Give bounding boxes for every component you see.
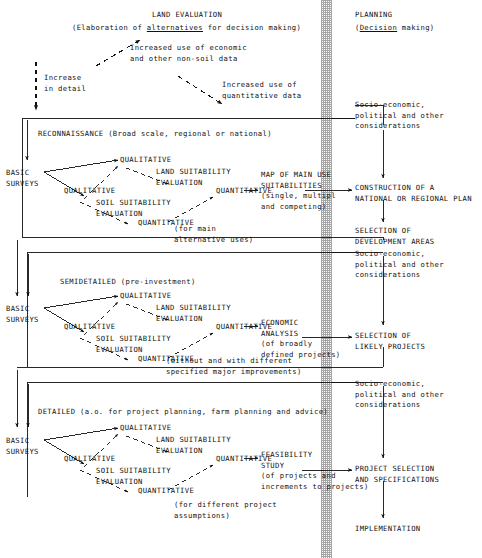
step-implementation: IMPLEMENTATION xyxy=(355,524,420,535)
section-heading-detailed: DETAILED (a.o. for project planning, far… xyxy=(38,407,328,418)
alternatives-emphasis: alternatives xyxy=(147,23,203,32)
qualitative-land-detailed: QUALITATIVE xyxy=(120,423,171,434)
output-economic-analysis: ECONOMIC ANALYSIS (of broadly defined pr… xyxy=(261,318,341,360)
quantitative-soil-detailed: QUANTITATIVE xyxy=(138,486,194,497)
land-suitability-evaluation-detailed: LAND SUITABILITY EVALUATION xyxy=(156,435,231,456)
output-feasibility-study: FEASIBILITY STUDY (of projects and incre… xyxy=(261,450,369,492)
land-evaluation-subtitle: (Elaboration of alternatives for decisio… xyxy=(72,23,301,34)
step-construction-of-plan: CONSTRUCTION OF A NATIONAL OR REGIONAL P… xyxy=(355,183,472,204)
basic-surveys-semidetailed: BASIC SURVEYS xyxy=(6,304,39,325)
considerations-reconnaissance: Socio-economic, political and other cons… xyxy=(355,100,444,132)
soil-suitability-evaluation-detailed: SOIL SUITABILITY EVALUATION xyxy=(96,466,171,487)
section-heading-semidetailed: SEMIDETAILED (pre-investment) xyxy=(60,277,196,288)
basic-surveys-reconnaissance: BASIC SURVEYS xyxy=(6,168,39,189)
planning-subtitle: (Decision making) xyxy=(355,23,435,34)
qualitative-soil-detailed: QUALITATIVE xyxy=(64,454,115,465)
soil-suitability-evaluation-reconnaissance: SOIL SUITABILITY EVALUATION xyxy=(96,198,171,219)
note-increase-in-detail: Increase in detail xyxy=(44,73,86,94)
decision-emphasis: Decision xyxy=(360,23,397,32)
land-suitability-evaluation-reconnaissance: LAND SUITABILITY EVALUATION xyxy=(156,167,231,188)
soil-suitability-evaluation-semidetailed: SOIL SUITABILITY EVALUATION xyxy=(96,334,171,355)
note-increased-economic-data: Increased use of economic and other non-… xyxy=(130,43,247,64)
step-project-selection-and-specifications: PROJECT SELECTION AND SPECIFICATIONS xyxy=(355,464,439,485)
qualitative-land-semidetailed: QUALITATIVE xyxy=(120,291,171,302)
qualitative-land-reconnaissance: QUALITATIVE xyxy=(120,155,171,166)
step-selection-of-development-areas: SELECTION OF DEVELOPMENT AREAS xyxy=(355,226,435,247)
qualitative-soil-reconnaissance: QUALITATIVE xyxy=(64,186,115,197)
qualitative-soil-semidetailed: QUALITATIVE xyxy=(64,322,115,333)
diagram-canvas: LAND EVALUATION (Elaboration of alternat… xyxy=(0,0,482,558)
note-increased-quantitative-data: Increased use of quantitative data xyxy=(222,80,302,101)
basic-surveys-detailed: BASIC SURVEYS xyxy=(6,436,39,457)
land-evaluation-title: LAND EVALUATION xyxy=(152,10,222,21)
considerations-semidetailed: Socio-economic, political and other cons… xyxy=(355,249,444,281)
considerations-detailed: Socio-economic, political and other cons… xyxy=(355,379,444,411)
output-map-of-main-use: MAP OF MAIN USE SUITABILITIES (single, m… xyxy=(261,170,336,212)
planning-title: PLANNING xyxy=(355,10,392,21)
footnote-main-alternative-uses: (for main alternative uses) xyxy=(174,224,254,245)
step-selection-of-likely-projects: SELECTION OF LIKELY PROJECTS xyxy=(355,331,425,352)
land-suitability-evaluation-semidetailed: LAND SUITABILITY EVALUATION xyxy=(156,303,231,324)
footnote-different-project-assumptions: (for different project assumptions) xyxy=(174,500,277,521)
section-heading-reconnaissance: RECONNAISSANCE (Broad scale, regional or… xyxy=(38,129,272,140)
footnote-specified-major-improvements: (without and with different specified ma… xyxy=(166,356,302,377)
